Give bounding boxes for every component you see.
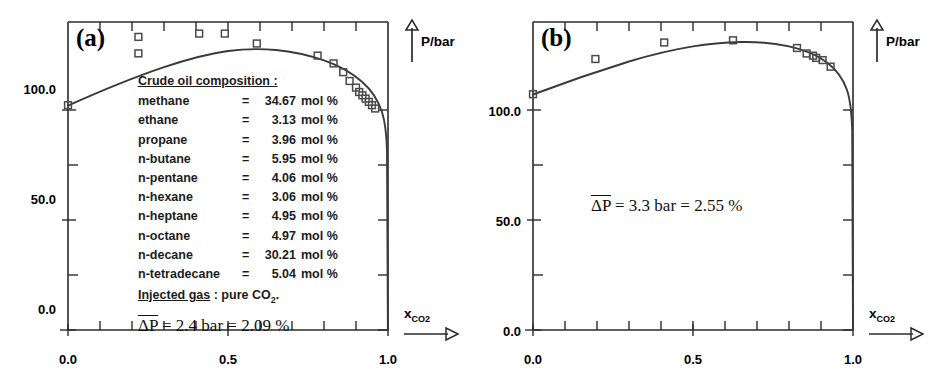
composition-row: n-decane = 30.21 mol % — [138, 246, 368, 265]
panel-b-xaxis-label-sub2: 2 — [890, 314, 895, 324]
component-value: 3.06 — [254, 188, 296, 207]
panel-b-ytick-100: 100.0 — [465, 104, 521, 119]
panel-b-xtick-05: 0.5 — [669, 352, 717, 367]
component-name: propane — [138, 131, 242, 150]
injected-gas-value: : pure CO — [210, 288, 270, 302]
panel-a-deltap-annotation: ΔP = 2.4 bar = 2.09 % — [138, 316, 289, 336]
panel-b-xtick-0: 0.0 — [509, 352, 557, 367]
component-value: 5.95 — [254, 150, 296, 169]
component-unit: mol % — [296, 92, 338, 111]
component-equals: = — [242, 111, 254, 130]
component-unit: mol % — [296, 265, 338, 284]
component-unit: mol % — [296, 131, 338, 150]
composition-row: n-tetradecane = 5.04 mol % — [138, 265, 368, 284]
component-value: 4.95 — [254, 207, 296, 226]
deltap-symbol: ΔP — [591, 195, 611, 215]
panel-a-yaxis-label: P/bar — [421, 34, 455, 49]
component-unit: mol % — [296, 207, 338, 226]
panel-a-ytick-0: 0.0 — [0, 302, 56, 317]
component-name: n-heptane — [138, 207, 242, 226]
panel-a-xtick-0: 0.0 — [44, 352, 92, 367]
component-equals: = — [242, 265, 254, 284]
component-unit: mol % — [296, 188, 338, 207]
panel-a-xaxis-label-sub: CO — [412, 314, 426, 324]
panel-a-xtick-05: 0.5 — [204, 352, 252, 367]
injected-gas-annotation: Injected gas : pure CO2. — [138, 288, 279, 305]
composition-row: n-butane = 5.95 mol % — [138, 150, 368, 169]
panel-a-xtick-1: 1.0 — [364, 352, 412, 367]
component-equals: = — [242, 131, 254, 150]
component-equals: = — [242, 246, 254, 265]
panel-a-xaxis-label-sub2: 2 — [425, 314, 430, 324]
component-unit: mol % — [296, 150, 338, 169]
panel-b-ytick-0: 0.0 — [465, 324, 521, 339]
composition-row: n-pentane = 4.06 mol % — [138, 169, 368, 188]
component-unit: mol % — [296, 246, 338, 265]
panel-a-ytick-50: 50.0 — [0, 192, 56, 207]
component-name: methane — [138, 92, 242, 111]
component-value: 5.04 — [254, 265, 296, 284]
panel-b-xaxis-label-sub: CO — [877, 314, 891, 324]
panel-a-xaxis-label-base: x — [404, 306, 412, 321]
composition-row: n-hexane = 3.06 mol % — [138, 188, 368, 207]
composition-row: methane = 34.67 mol % — [138, 92, 368, 111]
component-value: 3.96 — [254, 131, 296, 150]
panel-b-xtick-1: 1.0 — [829, 352, 877, 367]
composition-row: n-heptane = 4.95 mol % — [138, 207, 368, 226]
component-unit: mol % — [296, 111, 338, 130]
component-value: 3.13 — [254, 111, 296, 130]
component-unit: mol % — [296, 227, 338, 246]
panel-label-b: (b) — [541, 24, 572, 52]
component-equals: = — [242, 188, 254, 207]
composition-row: n-octane = 4.97 mol % — [138, 227, 368, 246]
component-name: ethane — [138, 111, 242, 130]
panel-label-a: (a) — [76, 24, 105, 52]
panel-a: (a) 100.0 50.0 0.0 0.0 0.5 1.0 P/bar xCO… — [0, 0, 466, 392]
panel-b-xaxis-label-base: x — [869, 306, 877, 321]
panel-b-ytick-50: 50.0 — [465, 214, 521, 229]
panel-b-xaxis-label: xCO2 — [869, 306, 895, 324]
component-name: n-butane — [138, 150, 242, 169]
injected-gas-end: . — [276, 288, 279, 302]
component-equals: = — [242, 169, 254, 188]
component-value: 4.97 — [254, 227, 296, 246]
component-value: 4.06 — [254, 169, 296, 188]
component-value: 30.21 — [254, 246, 296, 265]
composition-row: propane = 3.96 mol % — [138, 131, 368, 150]
panel-b-yaxis-label: P/bar — [886, 34, 920, 49]
component-name: n-tetradecane — [138, 265, 242, 284]
component-name: n-hexane — [138, 188, 242, 207]
crude-oil-composition-block: Crude oil composition : methane = 34.67 … — [138, 72, 368, 284]
component-unit: mol % — [296, 169, 338, 188]
component-name: n-decane — [138, 246, 242, 265]
component-equals: = — [242, 207, 254, 226]
deltap-text: = 3.3 bar = 2.55 % — [611, 196, 743, 215]
figure-two-panel-phase-diagram: (a) 100.0 50.0 0.0 0.0 0.5 1.0 P/bar xCO… — [0, 0, 931, 392]
panel-b-deltap-annotation: ΔP = 3.3 bar = 2.55 % — [591, 196, 742, 216]
component-equals: = — [242, 227, 254, 246]
deltap-symbol: ΔP — [138, 315, 158, 335]
injected-gas-label: Injected gas — [138, 288, 210, 302]
panel-b: (b) 100.0 50.0 0.0 0.0 0.5 1.0 P/bar xCO… — [465, 0, 931, 392]
panel-a-xaxis-label: xCO2 — [404, 306, 430, 324]
component-equals: = — [242, 92, 254, 111]
deltap-text: = 2.4 bar = 2.09 % — [158, 316, 290, 335]
panel-a-ytick-100: 100.0 — [0, 82, 56, 97]
composition-row: ethane = 3.13 mol % — [138, 111, 368, 130]
composition-title: Crude oil composition : — [138, 72, 368, 91]
component-name: n-pentane — [138, 169, 242, 188]
component-equals: = — [242, 150, 254, 169]
component-name: n-octane — [138, 227, 242, 246]
component-value: 34.67 — [254, 92, 296, 111]
